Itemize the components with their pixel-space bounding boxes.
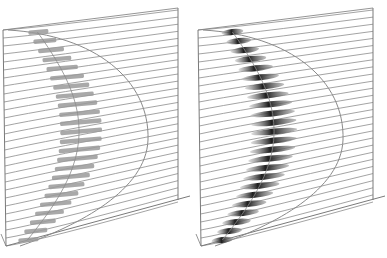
figure bbox=[0, 0, 387, 258]
streamline bbox=[4, 74, 178, 102]
velocity-marker bbox=[55, 164, 95, 172]
streamline bbox=[4, 60, 178, 86]
velocity-marker bbox=[50, 73, 84, 80]
streamline bbox=[198, 38, 373, 62]
velocity-marker bbox=[18, 237, 38, 243]
panel-right bbox=[195, 0, 387, 258]
streamline bbox=[199, 74, 373, 102]
velocity-marker bbox=[211, 236, 234, 244]
streamline bbox=[201, 174, 373, 214]
streamlines bbox=[3, 10, 178, 246]
diagram-left bbox=[0, 0, 192, 258]
streamline bbox=[5, 166, 178, 206]
streamline bbox=[4, 46, 178, 70]
velocity-marker bbox=[24, 228, 47, 234]
diagram-right bbox=[195, 0, 387, 258]
streamline bbox=[4, 53, 178, 78]
streamline bbox=[199, 81, 373, 110]
streamline bbox=[199, 53, 373, 78]
streamline bbox=[5, 145, 178, 182]
velocity-marker bbox=[60, 127, 102, 135]
streamline bbox=[200, 166, 373, 206]
velocity-marker bbox=[59, 145, 101, 153]
velocity-markers bbox=[211, 28, 297, 244]
streamline bbox=[4, 67, 178, 94]
velocity-marker bbox=[58, 100, 98, 108]
streamline bbox=[5, 110, 178, 142]
panel-left bbox=[0, 0, 192, 258]
streamline bbox=[6, 174, 178, 214]
velocity-marker bbox=[57, 154, 98, 162]
streamline bbox=[3, 38, 178, 62]
streamline bbox=[199, 46, 373, 70]
streamline bbox=[199, 67, 373, 94]
velocity-marker bbox=[52, 173, 90, 181]
streamline bbox=[200, 145, 373, 182]
streamline bbox=[199, 60, 373, 86]
velocity-marker bbox=[59, 109, 100, 117]
